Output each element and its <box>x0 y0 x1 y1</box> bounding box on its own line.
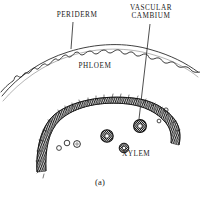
figure-caption: (a) <box>70 178 130 187</box>
label-phloem: PHLOEM <box>64 62 126 71</box>
periderm-secondary-contour <box>3 49 198 101</box>
periderm-arc-group <box>1 45 200 101</box>
label-periderm: PERIDERM <box>46 11 108 20</box>
xylem-boundary-band <box>0 80 200 190</box>
label-xylem: XYLEM <box>122 150 170 159</box>
xylem-vessel <box>157 119 161 123</box>
xylem-vessel <box>64 140 70 146</box>
figure-canvas: PERIDERM VASCULAR CAMBIUM PHLOEM XYLEM (… <box>0 0 200 200</box>
xylem-vessel <box>134 120 147 133</box>
xylem-vessel <box>57 146 62 151</box>
periderm-leader-line <box>71 22 73 49</box>
label-vascular-cambium: VASCULAR CAMBIUM <box>118 4 184 21</box>
xylem-vessel <box>74 141 81 148</box>
xylem-vessel-group <box>57 108 168 153</box>
stem-cross-section-drawing <box>0 0 200 200</box>
xylem-vessel <box>101 130 113 142</box>
